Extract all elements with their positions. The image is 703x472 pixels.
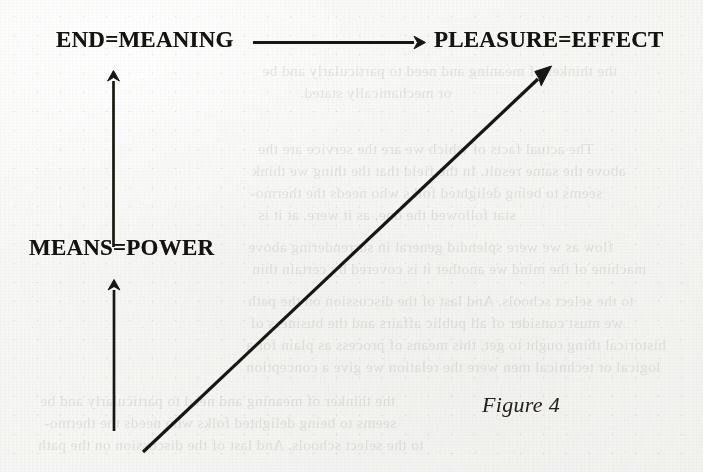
node-label-pleasure-effect: PLEASURE=EFFECT xyxy=(434,27,664,53)
figure-caption: Figure 4 xyxy=(482,392,560,418)
node-label-means-power: MEANS=POWER xyxy=(29,235,214,261)
node-label-end-meaning: END=MEANING xyxy=(56,27,234,53)
figure-page: the thinker of meaning and need to parti… xyxy=(0,0,703,472)
